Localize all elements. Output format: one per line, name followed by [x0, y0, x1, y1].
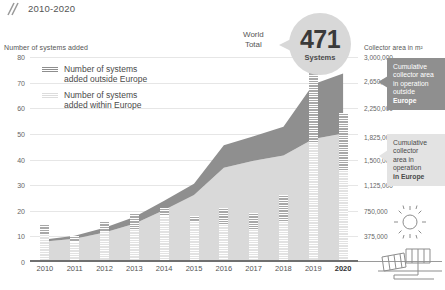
- double-slash-mark-icon: [4, 1, 24, 17]
- bar-segment-outside-europe: [219, 208, 228, 223]
- axis-baseline: [30, 260, 358, 262]
- bar-segment-outside-europe: [309, 70, 318, 142]
- legend-item-outside-europe: Number of systemsadded outside Europe: [42, 64, 147, 84]
- x-axis-tick-label: 2015: [186, 264, 203, 273]
- bar-segment-within-europe: [130, 229, 139, 262]
- world-total-label: World Total: [243, 30, 264, 49]
- x-axis-tick-label: 2019: [305, 264, 322, 273]
- bar-2011: [70, 236, 79, 262]
- left-axis-tick-label: 30: [17, 182, 25, 189]
- bar-segment-within-europe: [279, 221, 288, 262]
- x-axis-tick-label: 2020: [335, 264, 352, 273]
- x-axis-tick-label: 2014: [156, 264, 173, 273]
- x-axis-tick-label: 2016: [215, 264, 232, 273]
- bar-2019: [309, 70, 318, 262]
- bar-segment-outside-europe: [40, 224, 49, 234]
- world-total-line2: Total: [243, 40, 264, 50]
- bar-segment-outside-europe: [160, 208, 169, 216]
- bar-2013: [130, 213, 139, 262]
- bar-segment-within-europe: [219, 224, 228, 262]
- bar-segment-outside-europe: [130, 213, 139, 228]
- callout-line-emphasis: in Europe: [393, 173, 424, 180]
- x-axis-tick-label: 2012: [96, 264, 113, 273]
- callout-line: Cumulative: [393, 63, 440, 71]
- world-total-unit: Systems: [305, 53, 336, 62]
- header-year-range: 2010-2020: [28, 3, 75, 14]
- left-axis-tick-label: 70: [17, 79, 25, 86]
- callout-line: in operation: [393, 80, 440, 88]
- bar-2020: [339, 113, 348, 262]
- bar-segment-within-europe: [40, 234, 49, 262]
- left-axis-tick-label: 60: [17, 105, 25, 112]
- bar-segment-within-europe: [160, 216, 169, 262]
- x-axis-tick-label: 2010: [37, 264, 54, 273]
- bar-2010: [40, 224, 49, 262]
- callout-line-emphasis: Europe: [393, 97, 416, 104]
- left-axis-tick-label: 0: [21, 259, 25, 266]
- left-axis-tick-label: 10: [17, 233, 25, 240]
- legend-label: Number of systemsadded outside Europe: [64, 64, 147, 84]
- bar-segment-within-europe: [70, 242, 79, 263]
- x-axis-tick-label: 2018: [275, 264, 292, 273]
- left-axis-tick-label: 50: [17, 130, 25, 137]
- legend-swatch: [42, 92, 58, 99]
- bar-2016: [219, 208, 228, 262]
- legend-swatch: [42, 66, 58, 73]
- left-axis-tick-label: 20: [17, 207, 25, 214]
- x-axis-tick-label: 2017: [245, 264, 262, 273]
- bar-segment-within-europe: [190, 221, 199, 262]
- x-axis-tick-label: 2013: [126, 264, 143, 273]
- bar-segment-outside-europe: [279, 195, 288, 221]
- bar-segment-outside-europe: [100, 221, 109, 231]
- world-total-line1: World: [243, 30, 264, 40]
- x-axis-tick-label: 2011: [67, 264, 83, 273]
- left-axis-tick-label: 80: [17, 54, 25, 61]
- left-axis-title: Number of systems added: [4, 44, 88, 51]
- bar-segment-within-europe: [339, 170, 348, 262]
- bar-segment-within-europe: [309, 142, 318, 262]
- bar-2012: [100, 221, 109, 262]
- sun-and-solar-collector-icon: [378, 205, 442, 285]
- bar-segment-outside-europe: [249, 213, 258, 228]
- bar-2018: [279, 195, 288, 262]
- callout-line: collector: [393, 147, 440, 155]
- bar-2014: [160, 208, 169, 262]
- callout-line: collector area: [393, 71, 440, 79]
- right-axis-title: Collector area in m²: [364, 44, 423, 51]
- bar-segment-outside-europe: [190, 216, 199, 221]
- bar-segment-within-europe: [100, 231, 109, 262]
- legend-label: Number of systemsadded within Europe: [64, 90, 142, 110]
- legend-item-within-europe: Number of systemsadded within Europe: [42, 90, 147, 110]
- world-total-bubble: 471 Systems: [289, 13, 351, 75]
- callout-line: operation: [393, 164, 440, 172]
- bar-segment-outside-europe: [339, 113, 348, 169]
- bar-2015: [190, 216, 199, 262]
- legend: Number of systemsadded outside EuropeNum…: [42, 64, 147, 116]
- callout-within-europe: Cumulativecollectorarea inoperationin Eu…: [387, 134, 445, 186]
- world-total-number: 471: [300, 27, 340, 52]
- bar-segment-outside-europe: [70, 236, 79, 241]
- bar-2017: [249, 213, 258, 262]
- callout-line: Cumulative: [393, 139, 440, 147]
- callout-outside-europe: Cumulativecollector areain operationouts…: [387, 58, 445, 110]
- left-axis-tick-label: 40: [17, 156, 25, 163]
- callout-line: area in: [393, 156, 440, 164]
- callout-line: outside: [393, 88, 440, 96]
- bar-segment-within-europe: [249, 229, 258, 262]
